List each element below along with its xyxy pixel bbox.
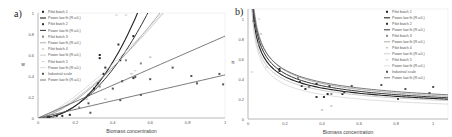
x-tick-label: 0.8 — [185, 120, 191, 125]
y-tick-label: 1 — [242, 17, 245, 22]
legend-entry: Pilot batch 3 — [48, 35, 68, 39]
data-point — [428, 92, 430, 94]
power-law-fit-line — [249, 0, 449, 96]
data-point — [327, 93, 329, 95]
legend-entry: Power law fit (R²=0.) — [48, 53, 81, 57]
legend-entry: Pilot batch 4 — [392, 46, 412, 50]
data-point — [99, 86, 101, 88]
y-axis-title: w — [21, 61, 25, 67]
legend-entry: Power law fit (R²=0.) — [48, 41, 81, 45]
data-point — [278, 70, 280, 72]
data-point — [132, 77, 134, 79]
y-tick-label: 0 — [242, 117, 245, 122]
x-tick-label: 0.4 — [319, 121, 325, 126]
data-point — [87, 102, 89, 104]
legend-entry: Power law fit (R²=0.) — [392, 76, 425, 80]
data-point — [99, 57, 101, 59]
legend-marker — [42, 73, 44, 75]
data-point — [343, 91, 345, 93]
legend-marker — [42, 61, 44, 62]
y-tick-label: 0.2 — [238, 97, 244, 102]
data-point — [316, 96, 318, 98]
power-law-fit-line — [249, 0, 449, 95]
data-point — [330, 106, 332, 107]
x-tick-label: 1 — [432, 121, 435, 126]
data-point — [112, 88, 114, 90]
data-point — [265, 67, 267, 68]
data-point — [380, 84, 382, 86]
x-tick-label: 0.6 — [147, 120, 153, 125]
legend-marker — [386, 35, 388, 37]
legend-entry: Pilot batch 5 — [392, 58, 412, 62]
legend-entry: Power law fit (R²=0.) — [392, 40, 425, 44]
data-point — [69, 114, 71, 116]
power-law-fit-line — [249, 0, 449, 99]
y-tick-label: 0.4 — [28, 74, 34, 79]
legend-marker — [42, 23, 44, 25]
data-point — [258, 43, 260, 45]
data-point — [260, 34, 262, 35]
chart-panel-b: b) 00.20.40.60.8100.20.40.60.81Biomass c… — [226, 0, 452, 137]
legend-entry: Power law fit (R²=0.) — [392, 52, 425, 56]
data-point — [89, 112, 91, 114]
legend-marker — [386, 23, 388, 25]
legend-marker — [386, 11, 388, 13]
legend-entry: Industrial scale — [392, 70, 416, 74]
data-point — [115, 15, 117, 16]
x-tick-label: 0 — [247, 121, 250, 126]
y-tick-label: 0.2 — [28, 95, 34, 100]
data-point — [323, 96, 325, 98]
data-point — [149, 57, 151, 58]
x-axis-title: Biomass concentration — [106, 128, 157, 134]
legend-entry: Power law fit (R²=0.) — [48, 16, 81, 20]
data-point — [130, 73, 132, 74]
data-point — [321, 110, 323, 111]
legend-entry: Pilot batch 1 — [392, 10, 412, 14]
data-point — [432, 86, 434, 88]
legend: Pilot batch 1Power law fit (R²=0.)Pilot … — [40, 10, 81, 82]
x-tick-label: 0.8 — [393, 121, 399, 126]
legend-entry: Industrial scale — [48, 72, 72, 76]
data-point — [140, 62, 142, 64]
chart-panel-a: a) 00.20.40.60.8100.20.40.60.81Biomass c… — [0, 0, 226, 137]
y-axis-title: π — [231, 59, 235, 65]
legend-marker — [42, 11, 44, 13]
legend-marker — [42, 49, 44, 50]
chart-a-plot: 00.20.40.60.8100.20.40.60.81Biomass conc… — [0, 0, 226, 137]
data-point — [125, 59, 127, 61]
x-axis-title: Biomass concentration — [323, 129, 374, 135]
y-tick-label: 0.4 — [238, 77, 244, 82]
legend-entry: Pilot batch 2 — [392, 22, 412, 26]
data-point — [134, 70, 136, 71]
legend-entry: Power law fit (R²=0.) — [48, 78, 81, 82]
data-point — [119, 99, 121, 101]
data-point — [85, 99, 87, 100]
data-point — [117, 44, 119, 46]
data-point — [99, 54, 101, 56]
legend: Pilot batch 1Power law fit (R²=0.)Pilot … — [384, 10, 425, 80]
legend-marker — [386, 59, 388, 60]
data-point — [190, 75, 192, 77]
legend-entry: Power law fit (R²=0.) — [392, 16, 425, 20]
data-point — [121, 80, 123, 82]
data-point — [125, 15, 127, 16]
data-point — [299, 81, 301, 83]
data-point — [351, 85, 353, 87]
data-point — [134, 76, 136, 78]
data-point — [104, 99, 106, 100]
legend-entry: Pilot batch 3 — [392, 34, 412, 38]
data-point — [196, 82, 198, 84]
x-tick-label: 0.2 — [282, 121, 288, 126]
y-tick-label: 0.6 — [28, 53, 34, 58]
legend-entry: Pilot batch 4 — [48, 47, 68, 51]
x-tick-label: 0.6 — [356, 121, 362, 126]
legend-entry: Power law fit (R²=0.) — [48, 29, 81, 33]
data-point — [104, 67, 106, 69]
data-point — [297, 77, 299, 79]
y-tick-label: 0 — [32, 116, 35, 121]
legend-entry: Power law fit (R²=0.) — [392, 64, 425, 68]
legend-entry: Pilot batch 1 — [48, 10, 68, 14]
data-point — [140, 94, 142, 96]
data-point — [404, 88, 406, 90]
data-point — [304, 88, 306, 90]
